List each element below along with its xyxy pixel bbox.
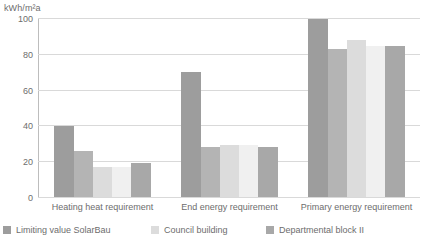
bar[interactable] xyxy=(308,19,327,197)
bar-set xyxy=(54,19,151,197)
legend-label: Council building xyxy=(164,225,228,235)
y-axis-tick-label: 20 xyxy=(23,157,33,167)
legend-swatch-icon xyxy=(266,226,274,234)
legend-label: Departmental block II xyxy=(279,225,364,235)
bar[interactable] xyxy=(112,167,131,197)
bar-group: End energy requirement xyxy=(166,19,293,197)
legend-item[interactable]: Departmental block II xyxy=(266,225,364,235)
chart-legend: Limiting value SolarBauCouncil buildingD… xyxy=(3,225,435,235)
bar-groups: Heating heat requirementEnd energy requi… xyxy=(39,19,420,197)
legend-swatch-icon xyxy=(3,226,11,234)
bar[interactable] xyxy=(239,145,258,197)
y-axis-title: kWh/m²a xyxy=(4,3,41,13)
bar-set xyxy=(181,19,278,197)
bar[interactable] xyxy=(347,40,366,197)
legend-item[interactable]: Council building xyxy=(151,225,266,235)
bar[interactable] xyxy=(201,147,220,197)
legend-label: Limiting value SolarBau xyxy=(16,225,111,235)
bar[interactable] xyxy=(220,145,239,197)
y-axis-tick-label: 60 xyxy=(23,86,33,96)
y-axis-tick-label: 100 xyxy=(18,14,33,24)
x-axis-category-label: Heating heat requirement xyxy=(39,202,166,212)
x-axis-category-label: Primary energy requirement xyxy=(293,202,420,212)
y-axis-tick-label: 0 xyxy=(28,193,33,203)
bar[interactable] xyxy=(366,46,385,197)
legend-swatch-icon xyxy=(151,226,159,234)
y-axis-tick-label: 40 xyxy=(23,121,33,131)
bar[interactable] xyxy=(181,72,200,197)
bar[interactable] xyxy=(54,126,73,197)
bar-group: Primary energy requirement xyxy=(293,19,420,197)
chart-container: kWh/m²a 020406080100 Heating heat requir… xyxy=(0,0,438,238)
legend-item[interactable]: Limiting value SolarBau xyxy=(3,225,151,235)
bar[interactable] xyxy=(93,167,112,197)
bar[interactable] xyxy=(385,46,404,197)
bar-set xyxy=(308,19,405,197)
bar[interactable] xyxy=(131,163,150,197)
bar[interactable] xyxy=(328,49,347,197)
gridline xyxy=(38,197,420,198)
bar[interactable] xyxy=(74,151,93,197)
bar-group: Heating heat requirement xyxy=(39,19,166,197)
x-axis-category-label: End energy requirement xyxy=(166,202,293,212)
bar[interactable] xyxy=(258,147,277,197)
y-axis-tick-label: 80 xyxy=(23,50,33,60)
plot-area: 020406080100 Heating heat requirementEnd… xyxy=(38,19,420,198)
